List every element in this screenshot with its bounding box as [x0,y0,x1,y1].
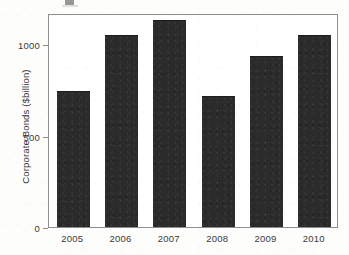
y-tick-label-0: 0 [35,223,40,234]
bar-2010 [298,35,331,227]
x-tick-label-2006: 2006 [110,233,132,244]
y-axis-title: Corporate Bonds ($billion) [20,47,31,207]
y-tick-label-1000: 1000 [18,40,40,51]
x-tick-label-2009: 2009 [255,233,277,244]
cropped-caption-artifact-2 [62,5,78,7]
bar-2007 [153,20,186,227]
y-tick-mark-500 [43,137,48,138]
y-tick-label-500: 500 [24,131,40,142]
plot-frame [48,14,338,228]
bar-2009 [250,56,283,227]
plot-area [49,15,337,227]
x-tick-label-2010: 2010 [303,233,325,244]
y-tick-mark-0 [43,228,48,229]
bar-2005 [57,91,90,227]
chart-screenshot: Corporate Bonds ($billion) 05001000 2005… [0,0,349,255]
x-tick-label-2008: 2008 [206,233,228,244]
y-tick-mark-1000 [43,45,48,46]
x-tick-label-2005: 2005 [61,233,83,244]
x-tick-label-2007: 2007 [158,233,180,244]
bar-2008 [202,96,235,227]
bar-2006 [105,35,138,227]
